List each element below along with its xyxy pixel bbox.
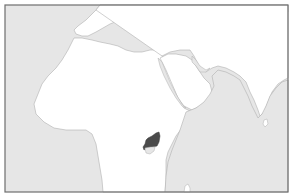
- map: [0, 0, 295, 196]
